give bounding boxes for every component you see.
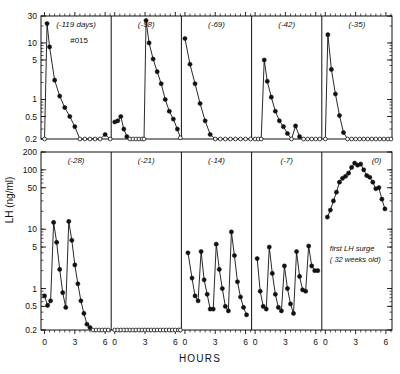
- x-tick-label: 0: [42, 337, 47, 347]
- data-point-open: [98, 137, 102, 141]
- subject-id-label: #015: [70, 36, 88, 45]
- data-point-filled: [341, 130, 345, 134]
- panel-label: (0): [372, 156, 382, 165]
- data-point-filled: [329, 67, 333, 71]
- data-point-filled: [73, 125, 77, 129]
- data-point-filled: [183, 36, 187, 40]
- x-tick-label: 6: [103, 337, 108, 347]
- data-point-filled: [45, 303, 49, 307]
- data-point-open: [218, 137, 222, 141]
- data-point-filled: [220, 286, 224, 290]
- data-point-filled: [285, 131, 289, 135]
- data-point-filled: [199, 249, 203, 253]
- data-point-filled: [188, 62, 192, 66]
- data-point-filled: [55, 240, 59, 244]
- lh-profile-figure: 3010510.50.22001005010510.50.20360360360…: [0, 0, 400, 374]
- data-point-filled: [307, 244, 311, 248]
- data-point-filled: [244, 313, 248, 317]
- data-point-filled: [262, 58, 266, 62]
- data-point-filled: [293, 124, 297, 128]
- y-tick-label: 10: [28, 38, 38, 48]
- data-point-filled: [281, 125, 285, 129]
- plot-row-0: 3010510.50.2: [25, 11, 392, 144]
- data-point-filled: [103, 132, 107, 136]
- data-point-open: [323, 137, 327, 141]
- data-point-open: [302, 137, 306, 141]
- data-point-filled: [297, 135, 301, 139]
- y-axis-title: LH (ng/ml): [4, 177, 15, 224]
- data-point-filled: [223, 304, 227, 308]
- x-tick-label: 6: [313, 337, 318, 347]
- y-tick-label: 0.2: [25, 134, 37, 144]
- data-point-filled: [73, 263, 77, 267]
- data-point-open: [234, 137, 238, 141]
- y-tick-label: 100: [23, 165, 37, 175]
- data-point-filled: [61, 291, 65, 295]
- data-point-filled: [203, 119, 207, 123]
- data-point-filled: [151, 57, 155, 61]
- x-tick-label: 0: [183, 337, 188, 347]
- data-point-filled: [171, 117, 175, 121]
- data-point-filled: [175, 127, 179, 131]
- data-point-filled: [214, 242, 218, 246]
- data-point-filled: [85, 322, 89, 326]
- data-point-filled: [47, 45, 51, 49]
- data-point-filled: [273, 292, 277, 296]
- data-point-filled: [211, 307, 215, 311]
- data-point-open: [213, 137, 217, 141]
- data-point-open: [93, 137, 97, 141]
- panel--14: (-14): [186, 156, 249, 317]
- y-tick-label: 30: [28, 11, 38, 21]
- data-point-filled: [297, 274, 301, 278]
- data-point-open: [350, 137, 354, 141]
- data-point-filled: [383, 207, 387, 211]
- x-tick-label: 3: [143, 337, 148, 347]
- data-point-filled: [122, 127, 126, 131]
- data-point-filled: [337, 113, 341, 117]
- data-point-filled: [58, 267, 62, 271]
- x-axis-title: HOURS: [179, 353, 221, 364]
- data-line: [185, 38, 251, 139]
- data-line: [257, 246, 318, 313]
- data-point-filled: [267, 245, 271, 249]
- y-tick-label: 1: [32, 284, 37, 294]
- data-point-filled: [264, 307, 268, 311]
- data-point-filled: [258, 289, 262, 293]
- data-point-filled: [198, 101, 202, 105]
- y-tick-label: 5: [32, 55, 37, 65]
- data-point-filled: [147, 41, 151, 45]
- y-tick-label: 0.5: [25, 112, 37, 122]
- data-point-filled: [82, 311, 86, 315]
- y-tick-label: 1: [32, 94, 37, 104]
- data-point-filled: [285, 286, 289, 290]
- data-line: [115, 20, 181, 139]
- data-point-open: [370, 137, 374, 141]
- data-point-filled: [362, 168, 366, 172]
- data-point-filled: [316, 269, 320, 273]
- data-point-filled: [119, 114, 123, 118]
- data-point-filled: [68, 114, 72, 118]
- data-point-filled: [304, 289, 308, 293]
- surge-annotation-line2: ( 32 weeks old): [330, 255, 381, 264]
- data-point-filled: [350, 165, 354, 169]
- y-tick-label: 0.2: [25, 325, 37, 335]
- data-point-open: [310, 137, 314, 141]
- data-point-filled: [76, 282, 80, 286]
- x-tick-label: 3: [353, 337, 358, 347]
- data-point-open: [106, 328, 110, 332]
- data-point-filled: [190, 276, 194, 280]
- y-tick-label: 50: [28, 183, 38, 193]
- panel--35: (-35): [323, 20, 392, 141]
- data-point-open: [108, 137, 112, 141]
- data-point-open: [223, 137, 227, 141]
- data-point-filled: [334, 190, 338, 194]
- data-point-filled: [226, 309, 230, 313]
- data-point-filled: [202, 278, 206, 282]
- data-point-open: [314, 137, 318, 141]
- data-point-filled: [45, 22, 49, 26]
- panel-0: (0)first LH surge( 32 weeks old): [325, 156, 387, 264]
- data-point-filled: [270, 271, 274, 275]
- data-point-filled: [333, 92, 337, 96]
- data-point-open: [249, 137, 253, 141]
- axes-frame: [41, 152, 392, 330]
